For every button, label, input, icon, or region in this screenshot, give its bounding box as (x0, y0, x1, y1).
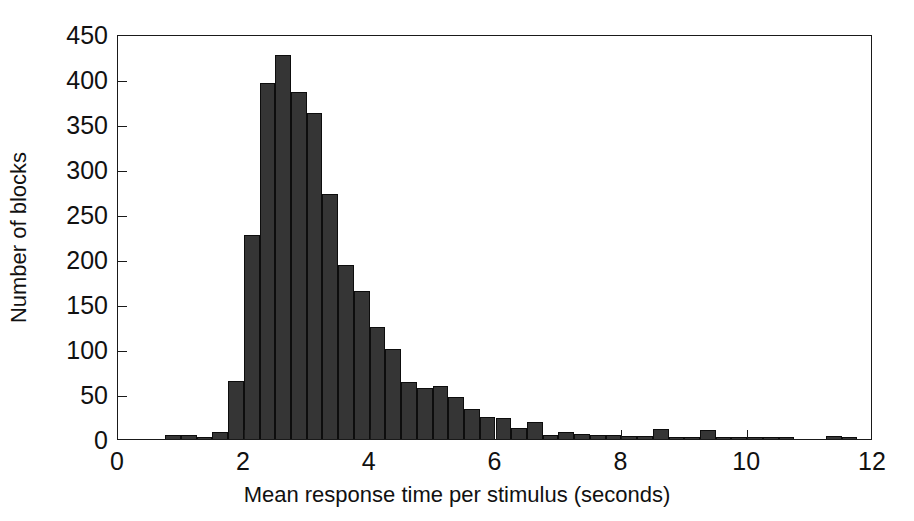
x-axis-tick (496, 430, 497, 439)
histogram-figure: 050100150200250300350400450 024681012 Me… (0, 0, 914, 521)
histogram-bar (244, 235, 260, 439)
histogram-bar (228, 381, 244, 439)
histogram-bar (197, 437, 213, 439)
histogram-bar (480, 417, 496, 440)
y-axis-tick (118, 396, 127, 397)
histogram-bar (338, 265, 354, 439)
y-axis-tick (118, 306, 127, 307)
histogram-bar (637, 436, 653, 439)
histogram-bar (543, 435, 559, 440)
y-axis-tick (118, 216, 127, 217)
x-axis-tick-label: 0 (87, 449, 147, 474)
x-axis-tick (747, 430, 748, 439)
histogram-bar (574, 434, 590, 439)
y-axis-tick-label: 450 (66, 23, 108, 48)
histogram-bar (181, 435, 197, 439)
histogram-bar (417, 388, 433, 439)
histogram-bar (165, 435, 181, 439)
x-axis-tick (621, 430, 622, 439)
histogram-bar (826, 436, 842, 439)
histogram-bar (669, 437, 685, 439)
x-axis-tick-label: 10 (716, 449, 776, 474)
histogram-bar (700, 430, 716, 439)
histogram-bar (653, 429, 669, 439)
y-axis-tick-label: 100 (66, 338, 108, 363)
x-axis-tick-label: 4 (339, 449, 399, 474)
histogram-bar (496, 418, 512, 439)
y-axis-tick (118, 351, 127, 352)
histogram-bar (322, 194, 338, 439)
histogram-bar (385, 349, 401, 439)
histogram-bar (448, 397, 464, 439)
y-axis-tick (118, 171, 127, 172)
histogram-bar (464, 409, 480, 439)
y-axis-tick-label: 400 (66, 68, 108, 93)
histogram-bars (118, 36, 871, 439)
histogram-bar (511, 428, 527, 439)
histogram-bar (731, 437, 747, 439)
histogram-bar (558, 432, 574, 439)
y-axis-tick-label: 50 (80, 383, 108, 408)
y-axis-tick (118, 81, 127, 82)
y-axis-tick-label: 200 (66, 248, 108, 273)
histogram-bar (527, 422, 543, 439)
y-axis-tick-label: 300 (66, 158, 108, 183)
y-axis-title: Number of blocks (8, 35, 44, 440)
histogram-bar (433, 386, 449, 439)
x-axis-tick (370, 430, 371, 439)
histogram-bar (842, 437, 858, 439)
histogram-bar (779, 437, 795, 439)
histogram-bar (747, 437, 763, 439)
histogram-bar (275, 55, 291, 439)
histogram-bar (401, 382, 417, 439)
x-axis-tick-label: 8 (590, 449, 650, 474)
y-axis-tick (118, 126, 127, 127)
y-axis-tick-label: 150 (66, 293, 108, 318)
y-axis-tick-label: 250 (66, 203, 108, 228)
histogram-bar (684, 437, 700, 439)
histogram-bar (260, 83, 276, 439)
histogram-bar (354, 291, 370, 440)
histogram-bar (370, 327, 386, 439)
histogram-bar (606, 435, 622, 439)
histogram-bar (212, 432, 228, 439)
histogram-bar (716, 437, 732, 439)
histogram-bar (621, 436, 637, 439)
x-axis-tick-label: 12 (842, 449, 902, 474)
x-axis-tick (244, 430, 245, 439)
histogram-bar (307, 113, 323, 439)
x-axis-tick-label: 2 (213, 449, 273, 474)
histogram-bar (291, 92, 307, 439)
histogram-bar (590, 435, 606, 440)
x-axis-tick-label: 6 (465, 449, 525, 474)
x-axis-title: Mean response time per stimulus (seconds… (0, 484, 914, 506)
y-axis-tick (118, 261, 127, 262)
y-axis-tick-label: 350 (66, 113, 108, 138)
histogram-bar (763, 437, 779, 439)
plot-area (117, 35, 872, 440)
